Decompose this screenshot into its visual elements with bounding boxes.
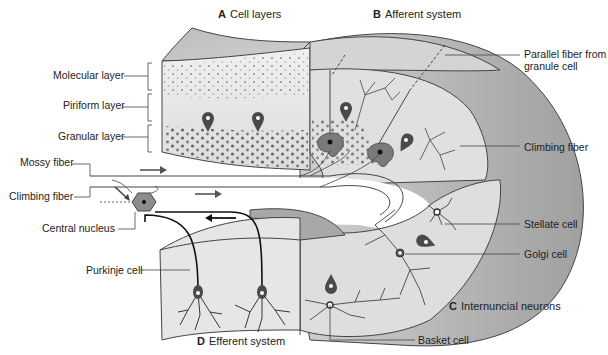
cell-layers-block <box>162 28 310 170</box>
section-letter: B <box>373 8 381 20</box>
label-climbing-fiber-left: Climbing fiber <box>9 190 73 202</box>
efferent-region <box>145 212 300 340</box>
section-d-title: DEfferent system <box>197 335 285 347</box>
section-letter: D <box>197 335 205 347</box>
label-stellate-cell: Stellate cell <box>524 218 578 230</box>
label-parallel-fiber-line1: Parallel fiber from <box>524 48 606 60</box>
section-title: Afferent system <box>385 8 461 20</box>
label-parallel-fiber-line2: granule cell <box>524 60 606 72</box>
flow-arrow-icon <box>140 166 167 174</box>
section-letter: C <box>449 300 457 312</box>
section-c-title: CInternuncial neurons <box>449 300 561 312</box>
section-title: Efferent system <box>209 335 285 347</box>
label-climbing-fiber-right: Climbing fiber <box>524 141 588 153</box>
label-golgi-cell: Golgi cell <box>524 248 567 260</box>
label-molecular-layer: Molecular layer <box>53 69 124 81</box>
section-a-title: ACell layers <box>218 8 281 20</box>
label-granular-layer: Granular layer <box>58 130 125 142</box>
label-mossy-fiber: Mossy fiber <box>20 156 74 168</box>
section-letter: A <box>218 8 226 20</box>
label-piriform-layer: Piriform layer <box>63 99 125 111</box>
label-basket-cell: Basket cell <box>418 334 469 346</box>
section-title: Cell layers <box>230 8 281 20</box>
section-b-title: BAfferent system <box>373 8 461 20</box>
label-parallel-fiber: Parallel fiber from granule cell <box>524 48 606 72</box>
label-central-nucleus: Central nucleus <box>42 222 115 234</box>
section-title: Internuncial neurons <box>461 300 561 312</box>
label-purkinje-cell: Purkinje cell <box>86 264 143 276</box>
